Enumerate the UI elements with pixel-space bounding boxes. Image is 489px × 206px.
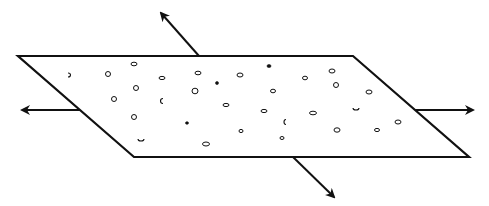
particle-dot <box>267 65 271 68</box>
arrow-up-left-icon <box>161 13 199 56</box>
particle-dot <box>186 122 189 125</box>
plane-surface <box>18 56 469 157</box>
particle-dot <box>216 82 219 85</box>
arrow-down-right-icon <box>293 157 334 197</box>
stretched-membrane-diagram <box>0 0 489 206</box>
